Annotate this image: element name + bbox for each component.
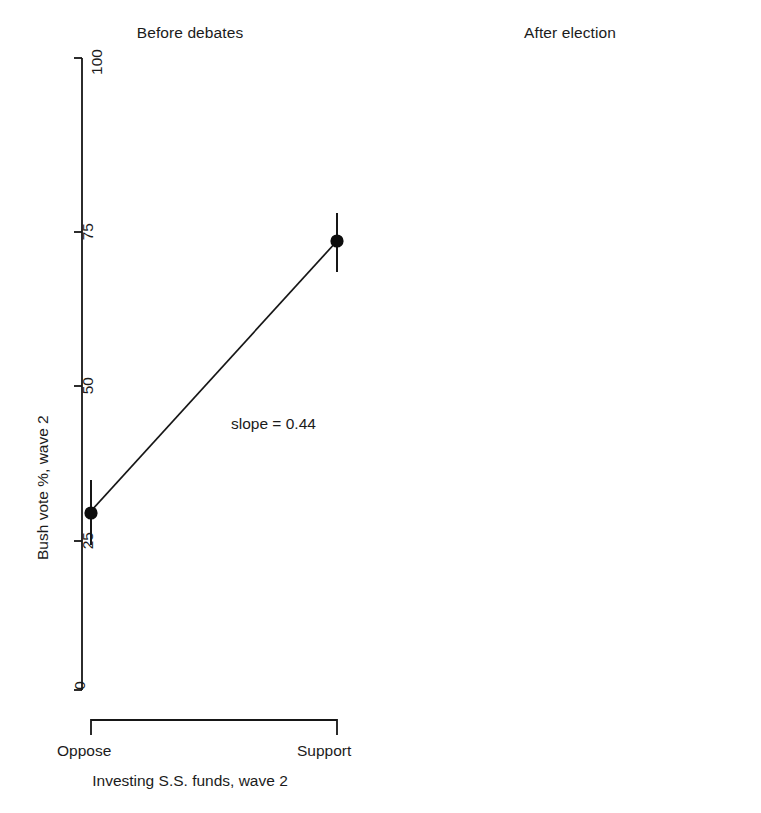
regression-line: [91, 241, 337, 511]
figure-two-panel-regression: Before debates Bush vote %, wave 2 100 7…: [0, 0, 761, 813]
x-category-oppose: Oppose: [57, 742, 111, 760]
data-point-oppose: [84, 506, 97, 519]
x-axis-bracket: [91, 720, 337, 735]
panel-before-debates: Before debates Bush vote %, wave 2 100 7…: [0, 0, 380, 813]
data-point-support: [330, 234, 343, 247]
panel-after-election: After election Bush vote %, wave 3 100 7…: [380, 0, 760, 813]
plot-area: [380, 0, 760, 813]
slope-annotation: slope = 0.44: [231, 415, 316, 433]
plot-area: [0, 0, 380, 813]
x-category-support: Support: [297, 742, 351, 760]
x-axis-label: Investing S.S. funds, wave 2: [0, 772, 380, 790]
